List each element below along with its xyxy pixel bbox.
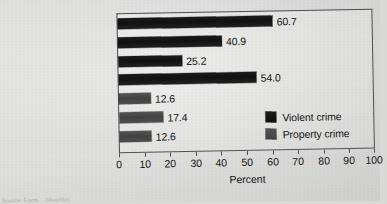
axis-tick (145, 153, 146, 157)
axis-tick (221, 151, 222, 155)
axis-tick-label: 0 (107, 158, 131, 170)
axis-tick-label: 40 (209, 156, 233, 168)
legend-item-property-crime[interactable]: Property crime (265, 124, 349, 143)
axis-tick-label: 30 (184, 157, 208, 169)
axis-tick (247, 151, 248, 155)
bar-value-label: 60.7 (276, 16, 296, 27)
bar-value-label: 12.6 (156, 131, 176, 142)
bar-value-label: 40.9 (226, 36, 246, 47)
axis-tick-label: 20 (158, 157, 182, 169)
axis-tick (374, 149, 375, 153)
bar-value-label: 54.0 (261, 72, 281, 83)
legend-label: Property crime (283, 127, 350, 140)
legend-swatch-icon (265, 111, 276, 122)
axis-tick-label: 80 (312, 154, 336, 166)
bar-burglary[interactable] (119, 93, 151, 105)
axis-tick-label: 10 (133, 158, 157, 170)
legend-label: Violent crime (282, 110, 341, 123)
axis-tick (349, 149, 350, 153)
axis-tick-label: 50 (235, 156, 259, 168)
axis-tick (196, 152, 197, 156)
axis-tick-label: 90 (337, 154, 361, 166)
axis-tick (170, 152, 171, 156)
bar-chart: Murder Forcible Rape Robbery Aggravated … (0, 0, 382, 204)
bar-larceny-theft[interactable] (119, 111, 163, 123)
axis-tick (273, 150, 274, 154)
bar-robbery[interactable] (118, 55, 182, 67)
axis-tick (324, 150, 325, 154)
legend-item-violent-crime[interactable]: Violent crime (265, 107, 349, 126)
source-note: Source: Facts .. (illegible) (2, 196, 70, 203)
axis-tick-label: 70 (286, 155, 310, 167)
bar-value-label: 17.4 (167, 112, 187, 123)
bar-motor-vehicle-theft[interactable] (120, 131, 152, 143)
axis-tick (119, 153, 120, 157)
bar-value-label: 12.6 (155, 93, 175, 104)
axis-tick-label: 60 (261, 155, 285, 167)
axis-tick (298, 150, 299, 154)
x-axis-title: Percent (119, 171, 375, 188)
bar-value-label: 25.2 (186, 56, 206, 67)
axis-tick-label: 100 (362, 153, 386, 165)
legend-swatch-icon (266, 128, 277, 139)
legend: Violent crime Property crime (265, 107, 349, 143)
bar-forcible-rape[interactable] (118, 35, 222, 48)
